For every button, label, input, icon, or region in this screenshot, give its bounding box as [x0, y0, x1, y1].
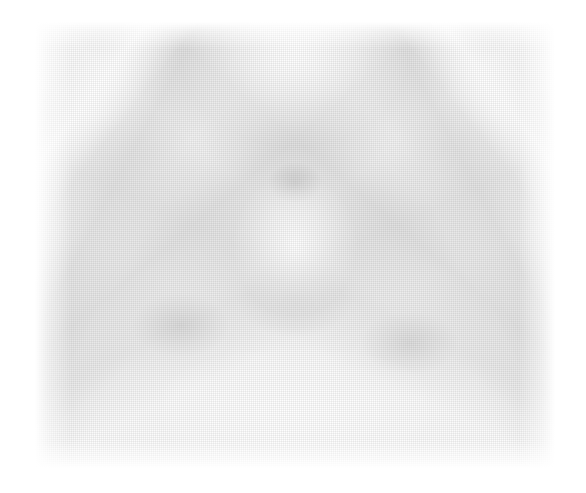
edge-vignette-fade [35, 22, 555, 468]
page-canvas [0, 0, 586, 493]
scanned-photograph-plate [35, 22, 555, 468]
